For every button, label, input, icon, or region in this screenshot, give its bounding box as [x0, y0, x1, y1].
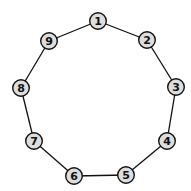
cycle-graph-diagram: 123456789 — [0, 0, 191, 191]
node-label: 2 — [143, 34, 151, 47]
node-label: 8 — [17, 82, 25, 95]
node-label: 4 — [163, 135, 171, 148]
node-7: 7 — [26, 133, 43, 150]
node-label: 9 — [45, 35, 53, 48]
node-label: 7 — [30, 135, 38, 148]
node-1: 1 — [90, 13, 107, 30]
node-label: 3 — [172, 81, 180, 94]
node-5: 5 — [118, 167, 135, 184]
node-6: 6 — [66, 168, 83, 185]
node-9: 9 — [41, 33, 58, 50]
nodes: 123456789 — [13, 13, 185, 185]
node-label: 1 — [94, 15, 102, 28]
node-3: 3 — [168, 79, 185, 96]
node-2: 2 — [139, 32, 156, 49]
node-label: 5 — [122, 169, 130, 182]
graph-svg: 123456789 — [0, 0, 191, 191]
node-label: 6 — [70, 170, 78, 183]
node-4: 4 — [159, 133, 176, 150]
node-8: 8 — [13, 80, 30, 97]
